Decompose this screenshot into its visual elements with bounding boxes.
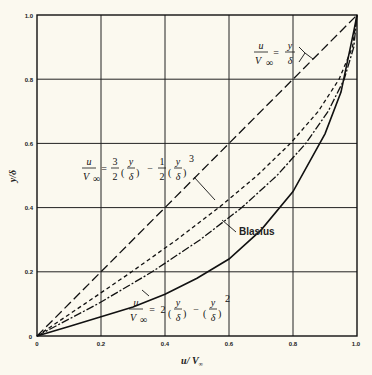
svg-text:2: 2	[161, 304, 166, 315]
cubic-equation-annotation: u V ∞ = 3 2 ( y δ ) − 1 2 ( y δ ) 3	[82, 153, 215, 200]
linear-equation-annotation: u V ∞ = y δ	[254, 40, 313, 68]
y-tick-0.2: 0.2	[25, 269, 34, 275]
svg-text:−: −	[147, 163, 153, 174]
svg-text:y: y	[175, 297, 181, 308]
blasius-label: Blasius	[239, 226, 275, 237]
y-tick-0: 0	[29, 334, 33, 340]
svg-text:3: 3	[113, 156, 118, 167]
svg-text:y: y	[210, 297, 216, 308]
velocity-profile-chart: 1.0 0.8 0.6 0.4 0.2 0 0 0.2 0.4 0.6 0.8 …	[0, 0, 372, 375]
y-tick-0.8: 0.8	[25, 77, 34, 83]
y-tick-0.6: 0.6	[25, 141, 34, 147]
cubic-pointer-line	[194, 177, 215, 200]
svg-text:u: u	[87, 156, 92, 167]
x-tick-0.2: 0.2	[97, 341, 106, 347]
svg-text:∞: ∞	[93, 173, 100, 184]
svg-text:−: −	[193, 304, 199, 315]
svg-text:2: 2	[225, 293, 230, 304]
svg-text:(: (	[203, 308, 207, 320]
svg-text:2: 2	[160, 171, 165, 182]
svg-text:∞: ∞	[140, 314, 147, 325]
svg-text:δ: δ	[288, 55, 293, 66]
svg-text:y: y	[128, 156, 134, 167]
svg-text:∞: ∞	[266, 57, 273, 68]
x-axis-label: u/ V∞	[181, 355, 204, 367]
svg-text:(: (	[168, 308, 172, 320]
y-tick-0.4: 0.4	[25, 205, 34, 211]
svg-text:u: u	[134, 297, 139, 308]
svg-text:1: 1	[160, 156, 165, 167]
parabolic-equation-annotation: u V ∞ = 2 ( y δ ) − ( y δ ) 2	[129, 290, 230, 325]
svg-text:=: =	[273, 47, 279, 58]
svg-text:V: V	[130, 312, 138, 323]
svg-text:(: (	[168, 167, 172, 179]
svg-text:y: y	[175, 156, 181, 167]
y-axis-label: y/δ	[7, 170, 18, 183]
x-axis-ticks: 0 0.2 0.4 0.6 0.8 1.0	[35, 341, 361, 347]
svg-text:δ: δ	[129, 171, 134, 182]
svg-text:): )	[183, 167, 186, 179]
svg-text:δ: δ	[176, 171, 181, 182]
svg-text:y: y	[287, 40, 293, 51]
svg-text:3: 3	[189, 153, 194, 164]
y-axis-ticks: 1.0 0.8 0.6 0.4 0.2 0	[25, 13, 34, 340]
svg-text:V: V	[255, 55, 263, 66]
svg-text:δ: δ	[176, 312, 181, 323]
linear-pointer-arrow	[299, 47, 305, 62]
x-tick-1.0: 1.0	[352, 341, 361, 347]
x-tick-0: 0	[35, 341, 39, 347]
svg-text:=: =	[101, 163, 107, 174]
svg-text:(: (	[121, 167, 125, 179]
svg-text:u: u	[259, 40, 264, 51]
x-tick-0.6: 0.6	[225, 341, 234, 347]
svg-text:δ: δ	[211, 312, 216, 323]
svg-text:): )	[218, 308, 221, 320]
parabolic-pointer-line	[142, 290, 149, 296]
svg-text:2: 2	[113, 171, 118, 182]
svg-text:=: =	[149, 304, 155, 315]
svg-text:): )	[183, 308, 186, 320]
x-tick-0.8: 0.8	[289, 341, 298, 347]
x-tick-0.4: 0.4	[161, 341, 170, 347]
svg-text:): )	[136, 167, 139, 179]
y-tick-1.0: 1.0	[25, 13, 34, 19]
svg-text:V: V	[83, 171, 91, 182]
